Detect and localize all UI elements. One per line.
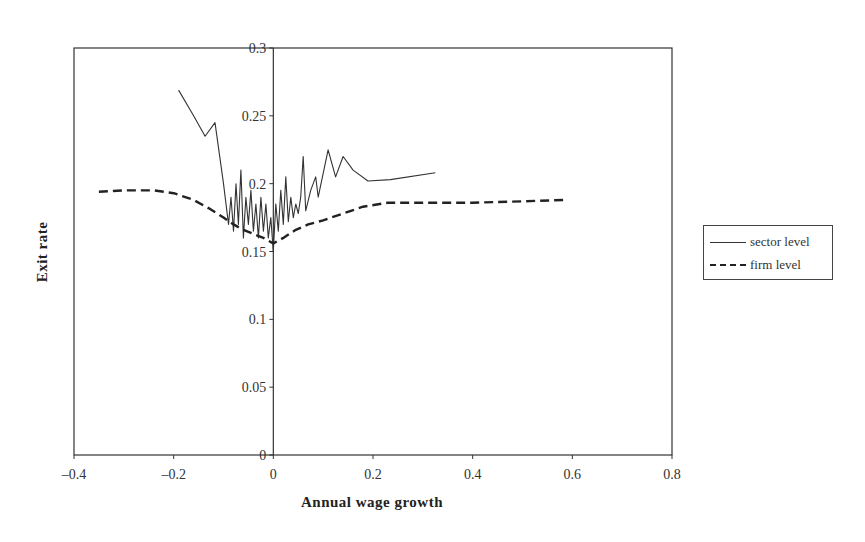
y-tick-label: 0.05 <box>242 380 267 395</box>
axis-ticks: –0.4–0.200.20.40.60.800.050.10.150.20.25… <box>61 41 681 482</box>
sector-level-line <box>179 90 436 251</box>
x-tick-label: –0.4 <box>61 467 87 482</box>
solid-line-swatch-icon <box>710 242 746 243</box>
series-lines <box>99 90 567 251</box>
plot-border <box>74 48 672 455</box>
firm-level-line <box>99 190 567 243</box>
legend: sector level firm level <box>703 225 833 280</box>
x-tick-label: 0.2 <box>364 467 382 482</box>
legend-item-firm: firm level <box>710 257 801 273</box>
x-axis-title: Annual wage growth <box>301 494 443 510</box>
y-tick-label: 0.2 <box>249 177 267 192</box>
x-tick-label: 0.4 <box>464 467 482 482</box>
legend-label-sector: sector level <box>750 234 810 250</box>
y-tick-label: 0 <box>259 448 266 463</box>
x-tick-label: 0.8 <box>663 467 681 482</box>
y-tick-label: 0.1 <box>249 312 267 327</box>
y-tick-label: 0.25 <box>242 109 267 124</box>
y-tick-label: 0.15 <box>242 245 267 260</box>
y-axis-title: Exit rate <box>34 222 50 283</box>
x-tick-label: 0 <box>270 467 277 482</box>
legend-label-firm: firm level <box>750 257 801 273</box>
dashed-line-swatch-icon <box>710 264 746 266</box>
plot-area <box>74 48 672 455</box>
x-tick-label: 0.6 <box>564 467 582 482</box>
legend-item-sector: sector level <box>710 234 810 250</box>
x-tick-label: –0.2 <box>160 467 186 482</box>
y-tick-label: 0.3 <box>249 41 267 56</box>
